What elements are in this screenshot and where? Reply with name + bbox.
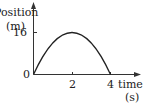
origin-label: 0: [23, 69, 30, 80]
position-curve: [34, 33, 111, 75]
y-axis-label: Position: [0, 7, 38, 18]
x-axis-arrow-icon: [134, 72, 141, 77]
x-axis-unit: (s): [125, 92, 139, 103]
position-time-chart: Position (m) 16 0 2 4 time (s): [0, 0, 144, 103]
x-axis-label: time: [118, 79, 143, 90]
x-tick-label-4: 4: [107, 79, 114, 90]
y-tick-label-16: 16: [13, 27, 27, 38]
x-tick-label-2: 2: [69, 79, 76, 90]
